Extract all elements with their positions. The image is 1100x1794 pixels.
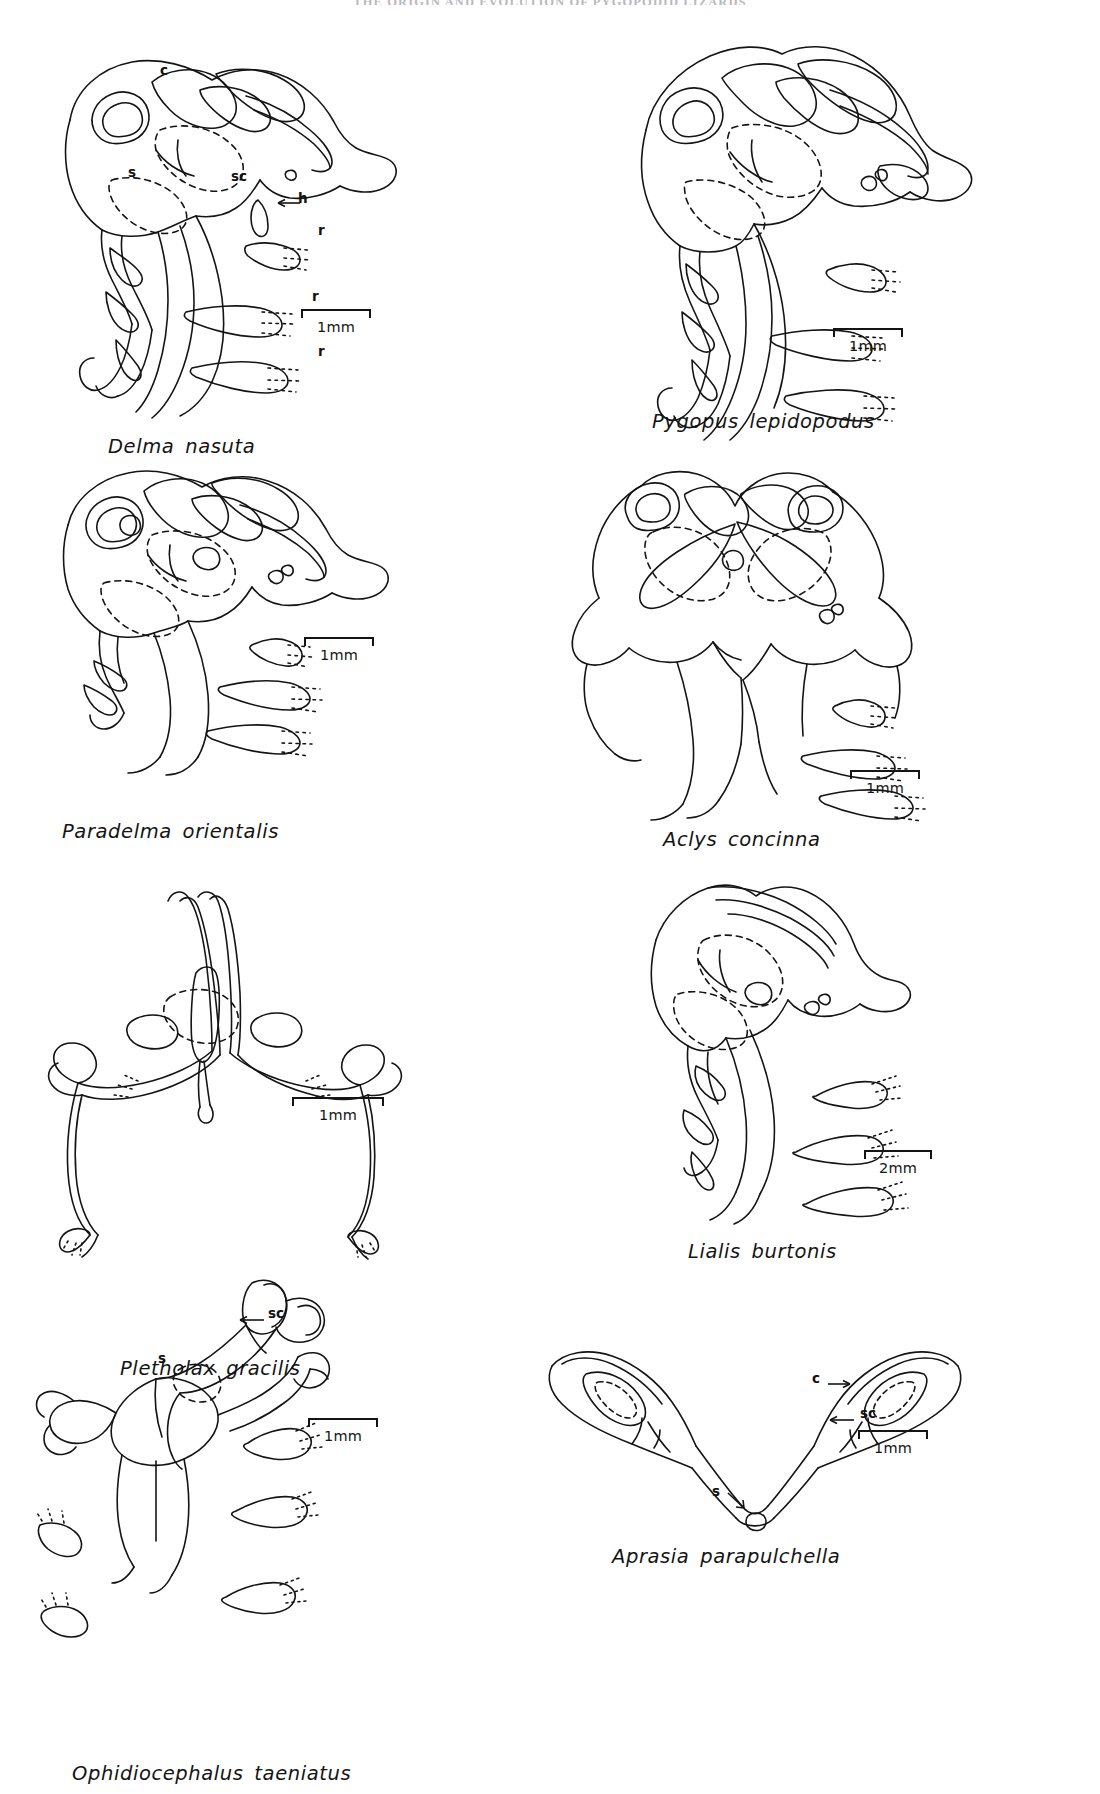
annotation-r-3: r: [318, 343, 325, 359]
running-head: THE ORIGIN AND EVOLUTION OF PYGOPODID LI…: [0, 0, 1100, 5]
figure-plate: THE ORIGIN AND EVOLUTION OF PYGOPODID LI…: [0, 0, 1100, 1794]
annotation-s: s: [712, 1483, 720, 1499]
annotation-s: s: [158, 1350, 166, 1366]
scale-bar-paradelma: 1mm: [304, 637, 374, 663]
scale-bar-label: 1mm: [292, 1107, 384, 1123]
panel-aprasia-parapulchella: c sc s 1mm Aprasia parapulchella: [520, 1330, 1010, 1630]
drawing-delma-nasuta: [40, 30, 440, 430]
panel-ophidiocephalus-taeniatus: sc s 1mm Ophidiocephalus taeniatus: [20, 1275, 420, 1794]
scale-bar-aprasia: 1mm: [858, 1430, 928, 1456]
drawing-lialis-burtonis: [580, 870, 1000, 1240]
annotation-c: c: [812, 1370, 820, 1386]
scale-bar-delma: 1mm: [301, 309, 371, 335]
species-label-lialis-burtonis: Lialis burtonis: [688, 1240, 837, 1263]
annotation-r-2: r: [312, 288, 319, 304]
scale-bar-label: 1mm: [301, 319, 371, 335]
annotation-sc: sc: [860, 1405, 876, 1421]
panel-paradelma-orientalis: 1mm Paradelma orientalis: [40, 455, 460, 855]
annotation-sc: sc: [268, 1305, 284, 1321]
drawing-pletholax-gracilis: [20, 885, 440, 1245]
annotation-c: c: [160, 62, 168, 78]
scale-bar-label: 1mm: [304, 647, 374, 663]
arrow-to-scapulocoracoid-icon: [234, 1311, 266, 1323]
panel-aclys-concinna: 1mm Aclys concinna: [545, 460, 1005, 880]
annotation-r-1: r: [318, 222, 325, 238]
arrow-to-clavicle-icon: [826, 1375, 856, 1387]
panel-lialis-burtonis: 2mm Lialis burtonis: [580, 870, 1010, 1290]
arrow-to-sternum-icon: [726, 1490, 750, 1512]
species-label-aclys-concinna: Aclys concinna: [663, 828, 821, 851]
drawing-ophidiocephalus-taeniatus: [20, 1275, 400, 1675]
scale-bar-lialis: 2mm: [864, 1150, 932, 1176]
panel-pygopus-lepidopodus: 1mm Pygopus lepidopodus: [590, 20, 1040, 490]
species-label-pygopus-lepidopodus: Pygopus lepidopodus: [652, 410, 875, 433]
scale-bar-ophidiocephalus: 1mm: [308, 1418, 378, 1444]
scale-bar-label: 1mm: [858, 1440, 928, 1456]
scale-bar-pygopus: 1mm: [833, 328, 903, 354]
scale-bar-label: 2mm: [864, 1160, 932, 1176]
scale-bar-pletholax: 1mm: [292, 1097, 384, 1123]
scale-bar-label: 1mm: [308, 1428, 378, 1444]
drawing-pygopus-lepidopodus: [590, 20, 1010, 440]
drawing-paradelma-orientalis: [40, 455, 440, 785]
arrow-to-scapulocoracoid-icon: [824, 1411, 856, 1423]
species-label-paradelma-orientalis: Paradelma orientalis: [62, 820, 279, 843]
panel-pletholax-gracilis: 1mm Pletholax gracilis: [20, 885, 450, 1285]
species-label-aprasia-parapulchella: Aprasia parapulchella: [612, 1545, 840, 1568]
scale-bar-label: 1mm: [833, 338, 903, 354]
species-label-ophidiocephalus-taeniatus: Ophidiocephalus taeniatus: [72, 1762, 351, 1785]
annotation-s: s: [128, 164, 136, 180]
scale-bar-aclys: 1mm: [850, 770, 920, 796]
annotation-sc: sc: [231, 168, 247, 184]
panel-delma-nasuta: c s sc h r r r 1mm Delma nasuta: [40, 30, 460, 470]
annotation-h: h: [298, 190, 308, 206]
scale-bar-label: 1mm: [850, 780, 920, 796]
